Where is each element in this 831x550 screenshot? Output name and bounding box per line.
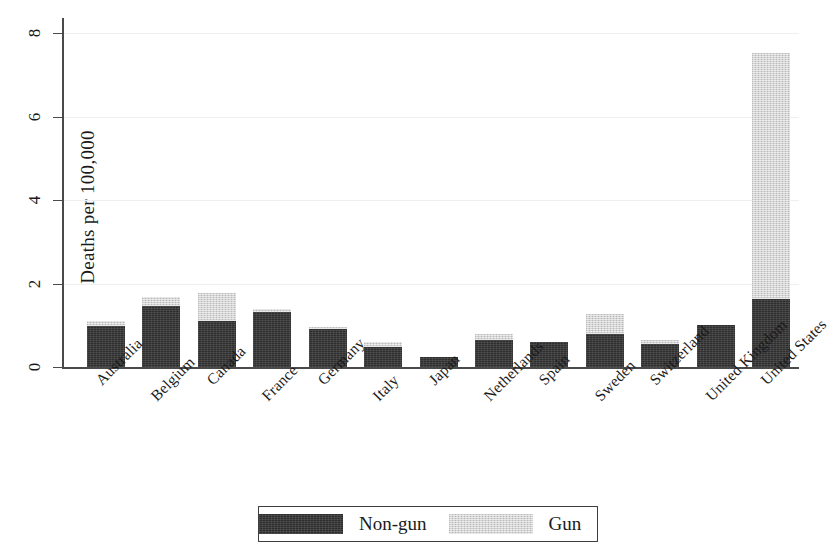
y-tick-label: 8 <box>25 20 45 46</box>
bar-series-container <box>62 18 799 368</box>
bar-group <box>475 334 513 367</box>
bar-group <box>586 314 624 367</box>
x-tick-label: France <box>258 361 301 404</box>
legend-item-non-gun: Non-gun <box>259 513 427 535</box>
plot-area: 02468 <box>62 18 799 368</box>
x-axis-tick-labels: AustraliaBelgiumCanadaFranceGermanyItaly… <box>62 368 799 498</box>
y-tick-label: 2 <box>25 271 45 297</box>
y-tick-label: 4 <box>25 187 45 213</box>
legend-item-gun: Gun <box>449 513 582 535</box>
chart-legend: Non-gun Gun <box>258 506 598 542</box>
legend-swatch-gun <box>449 514 533 534</box>
legend-label-gun: Gun <box>549 513 582 535</box>
bar-segment-non-gun <box>364 347 402 367</box>
legend-swatch-non-gun <box>259 514 343 534</box>
bar-segment-gun <box>752 53 790 299</box>
x-tick-label: Italy <box>369 371 403 405</box>
bar-segment-gun <box>586 314 624 334</box>
y-tick-label: 6 <box>25 104 45 130</box>
y-tick-label: 0 <box>25 354 45 380</box>
bar-segment-gun <box>198 293 236 321</box>
bar-segment-non-gun <box>253 312 291 367</box>
bar-group <box>253 309 291 367</box>
legend-label-non-gun: Non-gun <box>359 513 427 535</box>
bar-segment-non-gun <box>142 306 180 367</box>
bar-segment-non-gun <box>586 334 624 367</box>
bar-group <box>752 53 790 367</box>
bar-group <box>142 297 180 367</box>
bar-segment-gun <box>142 297 180 306</box>
bar-group <box>364 342 402 367</box>
